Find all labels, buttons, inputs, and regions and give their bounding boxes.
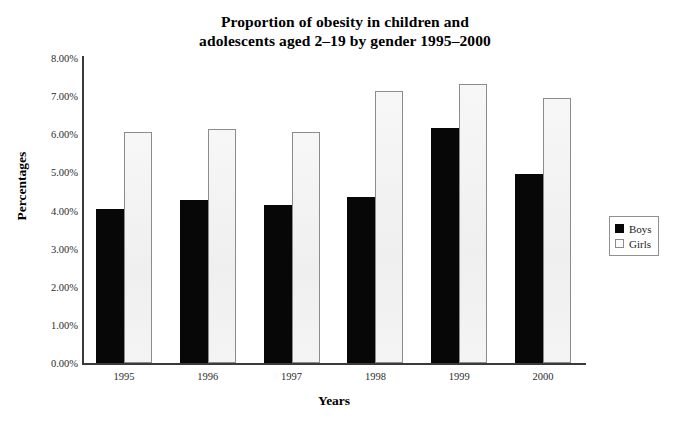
x-axis-tick-1996: 1996 xyxy=(166,371,250,382)
x-axis-label: Years xyxy=(82,393,586,409)
chart-legend: Boys Girls xyxy=(609,216,659,256)
x-axis-tick-2000: 2000 xyxy=(501,371,585,382)
legend-swatch-boys-icon xyxy=(615,224,624,233)
x-axis-tick-1998: 1998 xyxy=(333,371,417,382)
x-axis-tick-labels: 199519961997199819992000 xyxy=(0,0,673,429)
x-axis-tick-1999: 1999 xyxy=(417,371,501,382)
legend-item-boys: Boys xyxy=(615,221,652,236)
legend-label-girls: Girls xyxy=(629,238,651,250)
chart-figure: Proportion of obesity in children and ad… xyxy=(0,0,673,429)
legend-label-boys: Boys xyxy=(629,223,652,235)
legend-item-girls: Girls xyxy=(615,236,652,251)
x-axis-tick-1995: 1995 xyxy=(82,371,166,382)
legend-swatch-girls-icon xyxy=(615,239,624,248)
x-axis-tick-1997: 1997 xyxy=(250,371,334,382)
